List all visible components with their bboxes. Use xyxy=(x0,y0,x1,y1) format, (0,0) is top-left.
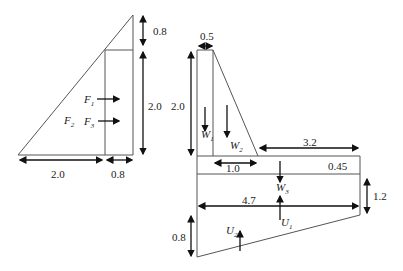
dim-label-stem-width: 0.5 xyxy=(200,31,214,42)
dim-label-left-depth: 0.8 xyxy=(172,232,186,243)
dim-label-base-left: 2.0 xyxy=(51,169,65,180)
dim-label-toe: 3.2 xyxy=(303,137,317,148)
left-dimension-arrows xyxy=(20,16,143,160)
weight-label-w1: W1 xyxy=(201,129,214,143)
left-pressure-figure xyxy=(18,15,133,155)
weight-label-w3: W3 xyxy=(276,182,289,196)
force-label-f2: F2 xyxy=(64,115,74,129)
dam-arrows xyxy=(191,46,367,256)
dim-label-stem-height: 2.0 xyxy=(171,101,185,112)
dim-label-right-height: 2.0 xyxy=(148,101,162,112)
dim-label-base-right: 0.8 xyxy=(111,169,125,180)
dim-label-top-height: 0.8 xyxy=(153,26,167,37)
uplift-label-u2: U2 xyxy=(226,225,237,239)
force-label-f1: F1 xyxy=(84,94,94,108)
dim-label-slab-thickness: 0.45 xyxy=(328,161,347,172)
dim-label-right-depth: 1.2 xyxy=(373,191,387,202)
bottom-slant-line xyxy=(197,215,360,257)
hypotenuse-line xyxy=(18,15,133,155)
dam-figure xyxy=(197,50,360,257)
force-label-f3: F3 xyxy=(84,116,94,130)
dim-label-heel: 1.0 xyxy=(226,163,240,174)
dim-label-total: 4.7 xyxy=(242,195,256,206)
uplift-label-u1: U1 xyxy=(281,217,292,231)
weight-label-w2: W2 xyxy=(230,140,243,154)
